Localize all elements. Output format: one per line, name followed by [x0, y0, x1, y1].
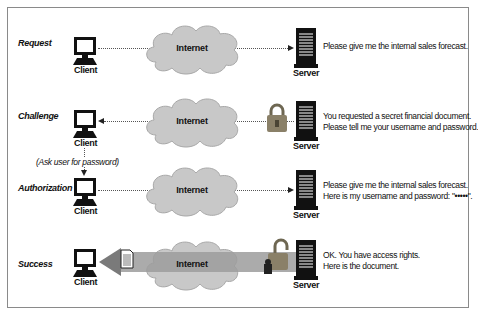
internet-cloud: Internet	[142, 95, 242, 149]
message: Please give me the internal sales foreca…	[323, 41, 468, 52]
row-request: Request Client Internet Server Please gi…	[0, 18, 475, 93]
row-authorization: Authorization Client Internet Server Ple…	[0, 166, 475, 241]
client-node: Client	[70, 109, 100, 143]
internet-cloud: Internet	[142, 22, 242, 76]
row-success: Success Internet Client Server OK. You h…	[0, 238, 475, 313]
message-line: Please tell me your username and passwor…	[323, 122, 478, 133]
message-line: You requested a secret financial documen…	[323, 111, 478, 122]
client-node: Client	[70, 177, 100, 211]
lock-open-icon	[262, 238, 290, 276]
monitor-icon	[70, 248, 100, 278]
row-challenge: Challenge Client Internet Server You req…	[0, 91, 475, 166]
message-line: Please give me the internal sales foreca…	[323, 41, 468, 52]
cloud-label: Internet	[142, 116, 242, 126]
server-node: Server	[294, 170, 318, 214]
monitor-icon	[70, 109, 100, 139]
message: Please give me the internal sales foreca…	[323, 180, 472, 202]
server-label: Server	[293, 280, 319, 290]
client-label: Client	[74, 138, 97, 148]
lock-closed-icon	[266, 103, 288, 133]
message: OK. You have access rights. Here is the …	[323, 250, 420, 272]
step-label: Challenge	[18, 111, 58, 121]
server-icon	[294, 170, 318, 210]
server-label: Server	[293, 68, 319, 78]
client-node: Client	[70, 248, 100, 282]
server-node: Server	[294, 240, 318, 284]
step-label: Authorization	[18, 183, 72, 193]
dotted-connector	[84, 148, 85, 157]
client-label: Client	[74, 65, 97, 75]
cloud-label: Internet	[142, 43, 242, 53]
document-icon	[120, 249, 134, 269]
message-line: Here is the document.	[323, 261, 420, 272]
server-icon	[294, 101, 318, 141]
monitor-icon	[70, 177, 100, 207]
server-icon	[294, 240, 318, 280]
cloud-label: Internet	[142, 185, 242, 195]
server-icon	[294, 28, 318, 68]
server-label: Server	[293, 210, 319, 220]
server-label: Server	[293, 141, 319, 151]
cloud-label: Internet	[142, 259, 242, 269]
step-label: Success	[18, 259, 52, 269]
server-node: Server	[294, 28, 318, 72]
client-label: Client	[74, 206, 97, 216]
server-node: Server	[294, 101, 318, 145]
message-line: OK. You have access rights.	[323, 250, 420, 261]
client-node: Client	[70, 36, 100, 70]
internet-cloud: Internet	[142, 164, 242, 218]
step-label: Request	[18, 38, 51, 48]
message: You requested a secret financial documen…	[323, 111, 478, 133]
client-label: Client	[74, 277, 97, 287]
message-line: Please give me the internal sales foreca…	[323, 180, 472, 191]
message-line: Here is my username and password: "•••••…	[323, 191, 472, 202]
monitor-icon	[70, 36, 100, 66]
